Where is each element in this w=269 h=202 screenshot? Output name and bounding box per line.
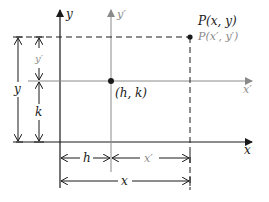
dimension-k-label: k xyxy=(35,105,42,119)
coordinate-translation-diagram: y y′ x x′ (h, k) P(x, y) P(x′, y′) y y′ … xyxy=(0,0,269,202)
dimension-h-label: h xyxy=(83,151,91,165)
P-prime-label: P(x′, y′) xyxy=(197,30,238,43)
origin-prime-label: (h, k) xyxy=(115,86,147,100)
dimension-x-label: x xyxy=(121,174,128,188)
x-prime-axis-label: x′ xyxy=(243,83,252,96)
dimension-y-prime-label: y′ xyxy=(34,53,44,64)
point-origin-prime xyxy=(108,78,114,84)
y-prime-axis-label: y′ xyxy=(116,8,126,21)
dimension-x-prime-label: x′ xyxy=(144,152,153,165)
y-axis-label: y xyxy=(65,7,73,21)
dimension-y-label: y xyxy=(13,82,21,96)
point-P xyxy=(187,34,192,39)
P-label: P(x, y) xyxy=(197,14,237,28)
x-axis-label: x xyxy=(244,143,251,157)
